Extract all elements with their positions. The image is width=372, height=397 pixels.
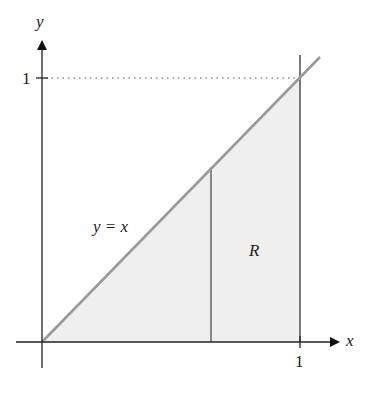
x-axis-label: x: [345, 331, 354, 350]
region-diagram: y 1 x 1 y = x R: [0, 0, 372, 397]
y-tick-label: 1: [22, 69, 31, 88]
x-tick-label: 1: [295, 352, 304, 371]
region-label: R: [248, 241, 260, 260]
y-axis-label: y: [34, 12, 44, 31]
curve-label: y = x: [91, 217, 129, 236]
